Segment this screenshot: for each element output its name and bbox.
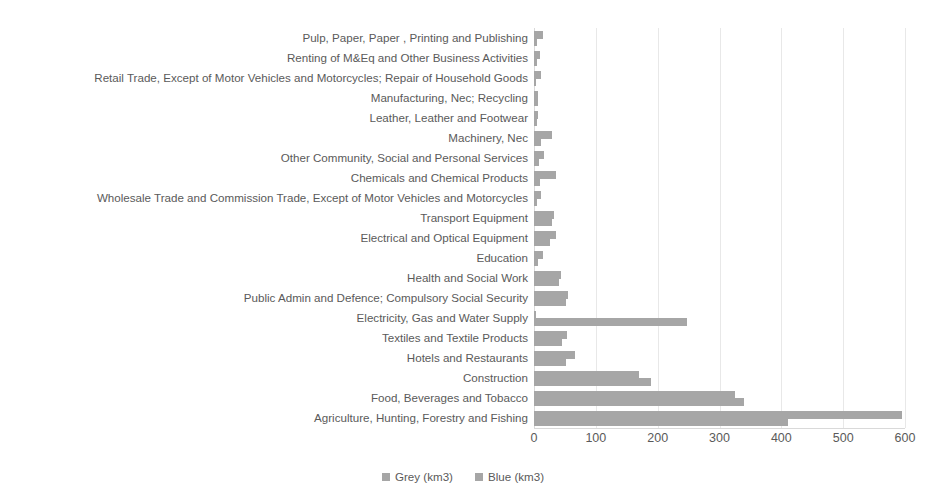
legend-swatch-icon: [475, 473, 483, 481]
bar-blue: [534, 198, 537, 206]
category-label: Health and Social Work: [0, 271, 528, 284]
bar-row: [534, 168, 905, 188]
bar-row: [534, 88, 905, 108]
x-tick-label: 400: [771, 431, 792, 445]
legend-item[interactable]: Grey (km3): [382, 470, 453, 483]
legend-item[interactable]: Blue (km3): [475, 470, 544, 483]
bar-blue: [534, 38, 537, 46]
category-label: Chemicals and Chemical Products: [0, 171, 528, 184]
x-axis-line: [534, 428, 905, 429]
bar-row: [534, 128, 905, 148]
bar-row: [534, 268, 905, 288]
bar-row: [534, 368, 905, 388]
x-tick-label: 0: [531, 431, 538, 445]
gridline-600: [905, 28, 906, 428]
bar-blue: [534, 158, 539, 166]
x-tick-label: 100: [585, 431, 606, 445]
bar-blue: [534, 318, 687, 326]
category-label: Wholesale Trade and Commission Trade, Ex…: [0, 191, 528, 204]
x-tick-label: 300: [709, 431, 730, 445]
category-label: Leather, Leather and Footwear: [0, 111, 528, 124]
x-tick-label: 600: [895, 431, 916, 445]
bar-blue: [534, 398, 744, 406]
bar-row: [534, 148, 905, 168]
category-label: Renting of M&Eq and Other Business Activ…: [0, 51, 528, 64]
bar-row: [534, 188, 905, 208]
category-label: Hotels and Restaurants: [0, 351, 528, 364]
bar-blue: [534, 278, 559, 286]
legend-swatch-icon: [382, 473, 390, 481]
bar-blue: [534, 358, 566, 366]
legend-label: Grey (km3): [395, 470, 453, 483]
bar-blue: [534, 378, 651, 386]
category-label: Retail Trade, Except of Motor Vehicles a…: [0, 71, 528, 84]
category-label: Transport Equipment: [0, 211, 528, 224]
bar-blue: [534, 218, 552, 226]
bar-row: [534, 308, 905, 328]
bar-row: [534, 28, 905, 48]
bar-blue: [534, 238, 550, 246]
bar-row: [534, 288, 905, 308]
bar-blue: [534, 138, 541, 146]
x-tick-label: 200: [647, 431, 668, 445]
bar-row: [534, 348, 905, 368]
bar-blue: [534, 258, 538, 266]
bar-blue: [534, 118, 537, 126]
category-axis-labels: Pulp, Paper, Paper , Printing and Publis…: [0, 28, 528, 428]
bar-blue: [534, 98, 538, 106]
category-label: Textiles and Textile Products: [0, 331, 528, 344]
bar-row: [534, 328, 905, 348]
bar-blue: [534, 178, 540, 186]
category-label: Electricity, Gas and Water Supply: [0, 311, 528, 324]
bar-row: [534, 48, 905, 68]
bar-blue: [534, 338, 562, 346]
category-label: Pulp, Paper, Paper , Printing and Publis…: [0, 31, 528, 44]
bar-row: [534, 208, 905, 228]
category-label: Public Admin and Defence; Compulsory Soc…: [0, 291, 528, 304]
category-label: Education: [0, 251, 528, 264]
bar-chart: Pulp, Paper, Paper , Printing and Publis…: [0, 0, 926, 502]
category-label: Electrical and Optical Equipment: [0, 231, 528, 244]
bar-blue: [534, 78, 536, 86]
plot-area: [534, 28, 905, 428]
bar-row: [534, 108, 905, 128]
bar-blue: [534, 58, 537, 66]
x-axis-tick-labels: 0100200300400500600: [534, 431, 905, 451]
bar-row: [534, 68, 905, 88]
bar-rows: [534, 28, 905, 428]
bar-row: [534, 228, 905, 248]
bar-row: [534, 388, 905, 408]
x-tick-label: 500: [833, 431, 854, 445]
bar-row: [534, 248, 905, 268]
legend-label: Blue (km3): [488, 470, 544, 483]
category-label: Agriculture, Hunting, Forestry and Fishi…: [0, 411, 528, 424]
category-label: Other Community, Social and Personal Ser…: [0, 151, 528, 164]
bar-row: [534, 408, 905, 428]
chart-legend: Grey (km3)Blue (km3): [0, 470, 926, 483]
category-label: Construction: [0, 371, 528, 384]
bar-blue: [534, 418, 788, 426]
category-label: Manufacturing, Nec; Recycling: [0, 91, 528, 104]
category-label: Machinery, Nec: [0, 131, 528, 144]
bar-blue: [534, 298, 566, 306]
category-label: Food, Beverages and Tobacco: [0, 391, 528, 404]
